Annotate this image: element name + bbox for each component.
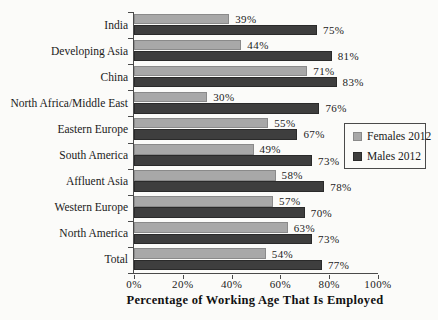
chart-row: South America49%73% — [134, 143, 378, 169]
category-label: Eastern Europe — [1, 123, 128, 136]
male-bar — [134, 25, 317, 36]
value-label: 76% — [325, 103, 346, 114]
chart-row: China71%83% — [134, 64, 378, 90]
chart-row: Total54%77% — [134, 247, 378, 273]
value-label: 49% — [260, 144, 281, 155]
value-label: 81% — [338, 51, 359, 62]
value-label: 70% — [311, 208, 332, 219]
legend-label: Females 2012 — [367, 131, 431, 142]
value-label: 30% — [213, 92, 234, 103]
value-label: 55% — [274, 118, 295, 129]
y-axis-tick — [128, 143, 134, 144]
chart-row: Affluent Asia58%78% — [134, 169, 378, 195]
male-bar — [134, 260, 322, 271]
x-axis-tick-label: 20% — [161, 278, 205, 290]
value-label: 57% — [279, 196, 300, 207]
category-label: India — [1, 19, 128, 32]
category-label: China — [1, 71, 128, 84]
legend: Females 2012Males 2012 — [344, 123, 426, 169]
category-label: North Africa/Middle East — [1, 97, 128, 110]
female-bar — [134, 144, 254, 155]
males-swatch-icon — [353, 152, 362, 161]
x-axis-title: Percentage of Working Age That Is Employ… — [95, 293, 415, 308]
male-bar — [134, 155, 312, 166]
category-label: Developing Asia — [1, 45, 128, 58]
value-label: 39% — [235, 14, 256, 25]
category-label: Affluent Asia — [1, 175, 128, 188]
value-label: 75% — [323, 25, 344, 36]
legend-label: Males 2012 — [367, 151, 421, 162]
x-axis-tick-label: 100% — [356, 278, 400, 290]
legend-item: Males 2012 — [353, 151, 425, 162]
male-bar — [134, 51, 332, 62]
x-axis-tick-label: 80% — [307, 278, 351, 290]
category-label: Western Europe — [1, 201, 128, 214]
y-axis-tick — [128, 221, 134, 222]
y-axis-tick — [128, 169, 134, 170]
x-axis-tick-label: 60% — [258, 278, 302, 290]
x-axis-tick-label: 0% — [112, 278, 156, 290]
y-axis-tick — [128, 90, 134, 91]
y-axis-tick — [128, 12, 134, 13]
female-bar — [134, 170, 276, 181]
y-axis-tick — [128, 247, 134, 248]
category-label: South America — [1, 149, 128, 162]
female-bar — [134, 196, 273, 207]
female-bar — [134, 66, 307, 77]
male-bar — [134, 181, 324, 192]
male-bar — [134, 77, 337, 88]
value-label: 71% — [313, 66, 334, 77]
value-label: 83% — [343, 77, 364, 88]
value-label: 78% — [330, 182, 351, 193]
value-label: 73% — [318, 234, 339, 245]
female-bar — [134, 14, 229, 25]
chart-row: North Africa/Middle East30%76% — [134, 90, 378, 116]
male-bar — [134, 234, 312, 245]
value-label: 44% — [247, 40, 268, 51]
x-axis-tick-label: 40% — [210, 278, 254, 290]
y-axis-tick — [128, 116, 134, 117]
male-bar — [134, 207, 305, 218]
chart-row: North America63%73% — [134, 221, 378, 247]
chart-row: Developing Asia44%81% — [134, 38, 378, 64]
value-label: 77% — [328, 260, 349, 271]
female-bar — [134, 248, 266, 259]
category-label: North America — [1, 227, 128, 240]
y-axis-tick — [128, 38, 134, 39]
category-label: Total — [1, 253, 128, 266]
female-bar — [134, 222, 288, 233]
female-bar — [134, 40, 241, 51]
bar-chart-figure: India39%75%Developing Asia44%81%China71%… — [0, 0, 438, 320]
value-label: 67% — [303, 129, 324, 140]
female-bar — [134, 118, 268, 129]
chart-row: India39%75% — [134, 12, 378, 38]
male-bar — [134, 103, 319, 114]
chart-row: Eastern Europe55%67% — [134, 116, 378, 142]
value-label: 54% — [272, 249, 293, 260]
plot-area: India39%75%Developing Asia44%81%China71%… — [133, 12, 378, 274]
legend-item: Females 2012 — [353, 131, 425, 142]
male-bar — [134, 129, 297, 140]
chart-row: Western Europe57%70% — [134, 195, 378, 221]
y-axis-tick — [128, 195, 134, 196]
females-swatch-icon — [353, 132, 362, 141]
y-axis-tick — [128, 64, 134, 65]
value-label: 73% — [318, 156, 339, 167]
value-label: 58% — [282, 170, 303, 181]
female-bar — [134, 92, 207, 103]
value-label: 63% — [294, 223, 315, 234]
